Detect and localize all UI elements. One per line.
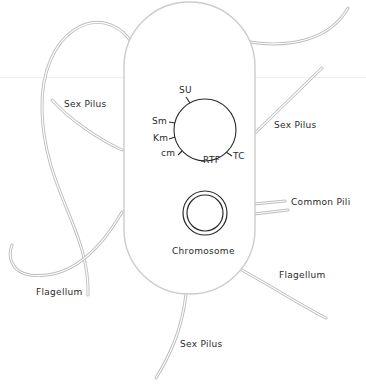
sex-pilus-label-upper-left: Sex Pilus bbox=[64, 99, 107, 109]
gene-label-km: Km bbox=[153, 133, 168, 143]
sex-pilus-bottom bbox=[156, 294, 186, 378]
gene-label-su: SU bbox=[179, 85, 192, 95]
flagellum-label-lower-right: Flagellum bbox=[279, 270, 326, 280]
gene-label-sm: Sm bbox=[152, 116, 167, 126]
chromosome-label: Chromosome bbox=[172, 246, 235, 256]
sex-pilus-label-bottom: Sex Pilus bbox=[180, 339, 223, 349]
gene-label-rtf: RTF bbox=[203, 155, 220, 165]
common-pili-label: Common Pili bbox=[291, 197, 350, 207]
common-pili bbox=[254, 201, 288, 214]
flagellum-left-lower bbox=[10, 212, 122, 276]
bacterium-diagram bbox=[0, 0, 366, 384]
gene-label-cm: cm bbox=[161, 148, 175, 158]
gene-label-tc: TC bbox=[233, 151, 245, 161]
flagellum-top-right bbox=[250, 8, 348, 44]
flagellum-label-lower-left: Flagellum bbox=[36, 287, 83, 297]
flagellum-left-long bbox=[42, 22, 130, 295]
sex-pilus-label-right: Sex Pilus bbox=[274, 120, 317, 130]
